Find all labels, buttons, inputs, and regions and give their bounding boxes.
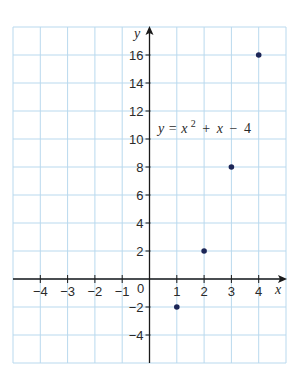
y-tick-label: 8 [136, 160, 143, 175]
origin-label: 0 [137, 281, 144, 296]
y-tick-label: 2 [136, 244, 143, 259]
data-point [256, 52, 262, 58]
y-tick-label: 16 [129, 48, 143, 63]
x-tick-label: 4 [255, 284, 262, 299]
y-tick-label: 10 [129, 132, 143, 147]
y-axis-label: y [132, 26, 141, 41]
x-axis-label: x [274, 282, 282, 297]
equation-term1: x [180, 121, 188, 136]
x-tick-label: −1 [115, 284, 130, 299]
y-tick-label: 6 [136, 188, 143, 203]
equation-constant: 4 [244, 121, 251, 136]
equation-term2: x [216, 121, 224, 136]
data-points [174, 52, 262, 310]
y-tick-label: −2 [129, 300, 144, 315]
equation-lhs: y [156, 121, 165, 136]
x-tick-label: 1 [173, 284, 180, 299]
x-tick-label: −4 [33, 284, 48, 299]
x-tick-label: 2 [200, 284, 207, 299]
x-tick-label: 3 [228, 284, 235, 299]
equation-exponent: 2 [191, 118, 196, 129]
y-tick-label: 12 [129, 104, 143, 119]
data-point [229, 164, 235, 170]
data-point [201, 248, 207, 254]
y-tick-label: 4 [136, 216, 143, 231]
equation-plus: + [202, 121, 210, 136]
y-tick-label: 14 [129, 76, 143, 91]
data-point [174, 304, 180, 310]
y-tick-label: −4 [129, 328, 144, 343]
x-tick-label: −3 [60, 284, 75, 299]
x-tick-label: −2 [87, 284, 102, 299]
scatter-chart: −4−3−2−11234−4−2246810121416 y x 0 y = x… [0, 0, 295, 381]
equation-minus: − [229, 121, 237, 136]
equation-annotation: y = x 2 + x − 4 [156, 115, 251, 136]
equation-equals: = [169, 121, 177, 136]
